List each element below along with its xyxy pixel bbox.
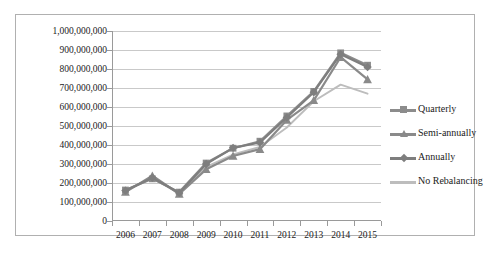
series-no-rebalancing	[125, 85, 367, 194]
y-axis-tick-label: 400,000,000	[60, 140, 108, 150]
legend-swatch-icon	[390, 104, 416, 116]
legend-marker-triangle-icon	[400, 130, 408, 137]
legend-item-no-rebalancing[interactable]: No Rebalancing	[390, 175, 494, 188]
legend-item-annually[interactable]: Annually	[390, 151, 494, 164]
chart-frame: 0100,000,000200,000,000300,000,000400,00…	[15, 14, 475, 236]
x-tick-mark	[300, 221, 301, 226]
x-tick-mark	[112, 221, 113, 226]
x-axis-tick-label: 2014	[331, 229, 350, 241]
y-axis-tick-label: 200,000,000	[60, 178, 108, 188]
plot-area	[112, 31, 381, 221]
legend-swatch-icon	[390, 176, 416, 188]
series-line	[125, 54, 367, 193]
x-tick-mark	[273, 221, 274, 226]
y-axis-tick-label: 300,000,000	[60, 159, 108, 169]
x-tick-mark	[139, 221, 140, 226]
x-tick-mark	[220, 221, 221, 226]
y-axis-tick-label: 800,000,000	[60, 64, 108, 74]
legend-item-quarterly[interactable]: Quarterly	[390, 103, 494, 116]
legend-swatch-icon	[390, 128, 416, 140]
y-axis-tick-label: 900,000,000	[60, 45, 108, 55]
legend-item-semi-annually[interactable]: Semi-annually	[390, 127, 494, 140]
x-tick-mark	[381, 221, 382, 226]
series-semi-annually	[121, 53, 372, 198]
y-axis-tick-label: 700,000,000	[60, 83, 108, 93]
x-axis-labels: 2006200720082009201020112012201320142015	[112, 229, 381, 247]
y-axis-tick-label: 600,000,000	[60, 102, 108, 112]
series-line	[125, 57, 367, 194]
x-axis-tick-label: 2009	[197, 229, 216, 241]
legend-line	[390, 181, 416, 184]
series-lines	[112, 31, 381, 221]
legend-label: Semi-annually	[418, 127, 476, 139]
legend-label: Annually	[418, 151, 455, 163]
x-tick-mark	[354, 221, 355, 226]
y-axis-tick-label: 100,000,000	[60, 197, 108, 207]
x-axis-tick-label: 2008	[170, 229, 189, 241]
y-axis-tick-label: 1,000,000,000	[52, 26, 107, 36]
x-axis-tick-label: 2007	[143, 229, 162, 241]
x-tick-mark	[247, 221, 248, 226]
legend-swatch-icon	[390, 152, 416, 164]
x-axis-tick-label: 2011	[251, 229, 270, 241]
y-axis-tick-label: 500,000,000	[60, 121, 108, 131]
x-tick-mark	[327, 221, 328, 226]
x-axis-tick-label: 2010	[224, 229, 243, 241]
x-tick-mark	[166, 221, 167, 226]
x-axis-tick-label: 2015	[358, 229, 377, 241]
legend-label: No Rebalancing	[418, 175, 483, 187]
series-annually	[121, 50, 372, 197]
series-line	[125, 85, 367, 194]
x-axis-tick-label: 2006	[116, 229, 135, 241]
y-axis-labels: 0100,000,000200,000,000300,000,000400,00…	[16, 31, 107, 221]
legend-marker-square-icon	[400, 106, 407, 113]
x-axis-tick-label: 2012	[277, 229, 296, 241]
legend-label: Quarterly	[418, 103, 456, 115]
series-quarterly	[122, 49, 371, 195]
x-tick-mark	[193, 221, 194, 226]
x-axis-tick-label: 2013	[304, 229, 323, 241]
legend-marker-diamond-icon	[399, 153, 407, 161]
chart-legend: QuarterlySemi-annuallyAnnuallyNo Rebalan…	[390, 103, 494, 199]
